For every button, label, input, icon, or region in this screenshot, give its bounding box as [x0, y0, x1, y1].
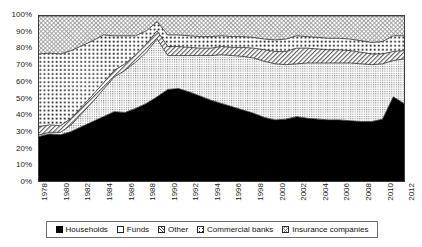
y-axis-tick-label: 100%	[12, 11, 32, 19]
stacked-area-chart: 0%10%20%30%40%50%60%70%80%90%100%	[0, 0, 422, 247]
legend-item-label: Funds	[127, 226, 149, 234]
legend-item-commercial-banks[interactable]: Commercial banks	[197, 226, 273, 234]
x-axis-tick-label: 1990	[171, 183, 179, 201]
x-axis-tick-label: 1992	[192, 183, 200, 201]
x-axis-tick-label: 2012	[408, 183, 416, 201]
x-axis-tick-label: 1996	[235, 183, 243, 201]
legend-item-funds[interactable]: Funds	[117, 226, 149, 234]
y-axis-tick-label: 30%	[16, 128, 32, 136]
y-axis-tick-label: 40%	[16, 111, 32, 119]
y-axis-tick-label: 80%	[16, 44, 32, 52]
other-swatch-icon	[158, 226, 165, 233]
x-axis-tick-label: 2002	[300, 183, 308, 201]
legend-item-label: Other	[168, 226, 188, 234]
legend-item-insurance-companies[interactable]: Insurance companies	[282, 226, 368, 234]
legend-item-households[interactable]: Households	[56, 226, 108, 234]
y-axis-tick-label: 50%	[16, 95, 32, 103]
x-axis-tick-label: 1998	[257, 183, 265, 201]
x-axis-tick-label: 1984	[106, 183, 114, 201]
y-axis-tick-label: 20%	[16, 145, 32, 153]
x-axis-tick-label: 1982	[84, 183, 92, 201]
x-axis-tick-label: 2006	[343, 183, 351, 201]
legend-item-label: Commercial banks	[207, 226, 273, 234]
y-axis-tick-label: 90%	[16, 28, 32, 36]
y-axis: 0%10%20%30%40%50%60%70%80%90%100%	[0, 15, 36, 182]
x-axis-tick-label: 1988	[149, 183, 157, 201]
x-axis-tick-label: 2004	[322, 183, 330, 201]
x-axis-tick-label: 1994	[214, 183, 222, 201]
y-axis-tick-label: 10%	[16, 161, 32, 169]
legend-item-label: Insurance companies	[292, 226, 368, 234]
commercial-banks-swatch-icon	[197, 226, 204, 233]
x-axis-tick-label: 2008	[365, 183, 373, 201]
legend-item-other[interactable]: Other	[158, 226, 188, 234]
y-axis-tick-label: 60%	[16, 78, 32, 86]
households-swatch-icon	[56, 226, 63, 233]
x-axis: 1978198019821984198619881990199219941996…	[38, 183, 405, 217]
plot-area	[38, 15, 405, 182]
x-axis-tick-label: 1986	[128, 183, 136, 201]
insurance-companies-swatch-icon	[282, 226, 289, 233]
y-axis-tick-label: 0%	[20, 178, 32, 186]
x-axis-tick-label: 1978	[41, 183, 49, 201]
legend-item-label: Households	[66, 226, 108, 234]
x-axis-tick-label: 1980	[63, 183, 71, 201]
chart-legend: HouseholdsFundsOtherCommercial banksInsu…	[46, 221, 378, 238]
x-axis-tick-label: 2010	[387, 183, 395, 201]
area-series-svg	[39, 16, 404, 181]
y-axis-tick-label: 70%	[16, 61, 32, 69]
funds-swatch-icon	[117, 226, 124, 233]
x-axis-tick-label: 2000	[279, 183, 287, 201]
plot-clip	[39, 16, 404, 181]
